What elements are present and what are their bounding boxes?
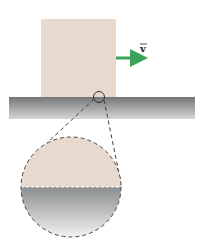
surface bbox=[9, 97, 195, 119]
friction-diagram: v bbox=[0, 0, 205, 251]
velocity-label: v bbox=[139, 43, 147, 54]
block bbox=[41, 19, 116, 97]
magnified-view bbox=[21, 137, 121, 237]
